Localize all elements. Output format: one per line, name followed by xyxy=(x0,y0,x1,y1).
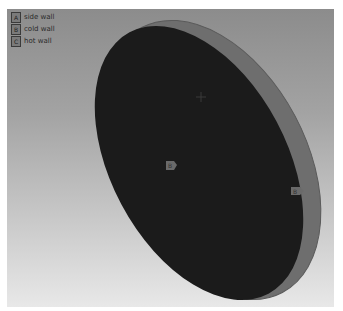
cold-wall-face[interactable] xyxy=(52,9,334,307)
marker-label: B xyxy=(168,162,172,169)
disc-geometry[interactable]: B B xyxy=(7,9,334,307)
graphics-viewport[interactable]: A side wall B cold wall C hot wall B B xyxy=(7,9,334,307)
marker-label: B xyxy=(293,188,297,195)
